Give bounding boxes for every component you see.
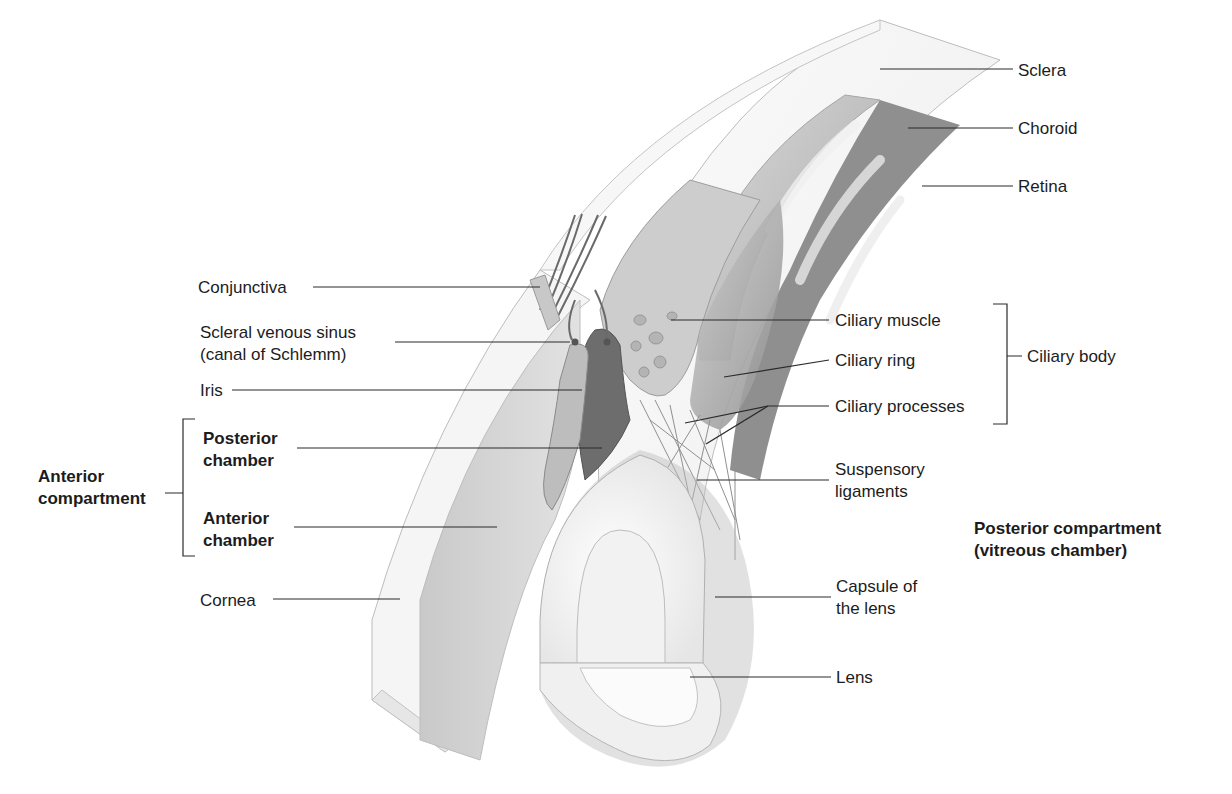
label-ciliary-muscle: Ciliary muscle [835, 310, 941, 331]
label-posterior-chamber-1: Posterior [203, 428, 278, 449]
label-iris: Iris [200, 380, 223, 401]
label-capsule-of-lens-1: Capsule of [836, 576, 917, 597]
label-ciliary-ring: Ciliary ring [835, 350, 915, 371]
label-suspensory-1: Suspensory [835, 459, 925, 480]
label-sclera: Sclera [1018, 60, 1066, 81]
label-anterior-compartment-2: compartment [38, 488, 146, 509]
label-posterior-chamber-2: chamber [203, 450, 274, 471]
label-posterior-compartment-2: (vitreous chamber) [974, 540, 1127, 561]
label-scleral-venous-sinus: Scleral venous sinus [200, 322, 356, 343]
label-ciliary-processes: Ciliary processes [835, 396, 964, 417]
lens-structure [540, 450, 754, 767]
eye-anatomy-diagram: Sclera Choroid Retina Conjunctiva Sclera… [0, 0, 1232, 794]
label-ciliary-body: Ciliary body [1027, 346, 1116, 367]
label-capsule-of-lens-2: the lens [836, 598, 896, 619]
ciliary-body-bracket [993, 304, 1022, 424]
label-suspensory-2: ligaments [835, 481, 908, 502]
label-lens: Lens [836, 667, 873, 688]
label-conjunctiva: Conjunctiva [198, 277, 287, 298]
scleral-vessel-dot [604, 339, 611, 346]
label-choroid: Choroid [1018, 118, 1078, 139]
label-posterior-compartment-1: Posterior compartment [974, 518, 1161, 539]
label-anterior-compartment-1: Anterior [38, 466, 104, 487]
label-anterior-chamber-1: Anterior [203, 508, 269, 529]
scleral-venous-sinus-dot [572, 339, 579, 346]
label-canal-of-schlemm: (canal of Schlemm) [200, 344, 346, 365]
label-cornea: Cornea [200, 590, 256, 611]
label-retina: Retina [1018, 176, 1067, 197]
anterior-compartment-bracket [165, 419, 195, 556]
label-anterior-chamber-2: chamber [203, 530, 274, 551]
